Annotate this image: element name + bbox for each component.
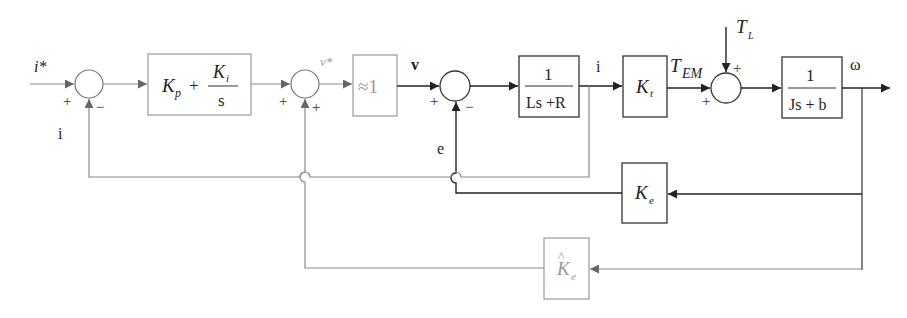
sum1-plus-sign: + — [63, 93, 71, 109]
pi-kp-text: K — [161, 75, 176, 96]
sum3-plus-sign: + — [430, 93, 438, 109]
tem-label: T — [670, 55, 682, 76]
tl-label: T — [736, 16, 748, 37]
sum2-plus-left: + — [279, 93, 287, 109]
i-feedback-label: i — [58, 125, 63, 142]
ke-hat-feedback-wire — [300, 99, 544, 268]
omega-label: ω — [850, 56, 861, 73]
kt-text: K — [635, 76, 650, 97]
pi-den-text: s — [218, 91, 225, 110]
tl-sub: L — [747, 30, 754, 41]
electrical-den: Ls +R — [526, 94, 566, 111]
ke-text: K — [634, 182, 649, 203]
i-label: i — [596, 58, 601, 75]
pi-ki-sub: i — [226, 72, 229, 84]
motor-control-block-diagram: i* + − K p + K i s + + v* ≈1 v + − 1 Ls … — [0, 0, 907, 318]
tem-sub: EM — [681, 66, 704, 81]
sum3-minus-sign: − — [465, 99, 473, 115]
summing-junction-4 — [711, 73, 741, 103]
sum4-plus-left: + — [702, 93, 710, 109]
sum1-minus-sign: − — [96, 99, 104, 115]
sum2-plus-bottom: + — [312, 99, 320, 115]
ke-hat-sub: e — [571, 270, 576, 282]
ke-sub: e — [649, 194, 654, 206]
sum4-plus-top: + — [733, 60, 741, 76]
v-label: v — [411, 56, 419, 73]
summing-junction-2 — [291, 70, 319, 98]
mechanical-den: Js + b — [789, 96, 826, 113]
pi-ki-text: K — [212, 62, 226, 82]
mechanical-num: 1 — [806, 66, 815, 85]
electrical-num: 1 — [544, 65, 553, 84]
approx-unity-text: ≈1 — [358, 76, 378, 97]
e-label: e — [437, 140, 444, 157]
pi-kp-sub: p — [174, 86, 181, 100]
input-label: i* — [34, 58, 46, 75]
ke-hat-accent: ^ — [558, 250, 565, 265]
v-star-label: v* — [320, 54, 333, 69]
pi-plus: + — [189, 76, 199, 95]
summing-junction-1 — [75, 70, 103, 98]
summing-junction-3 — [440, 71, 470, 101]
